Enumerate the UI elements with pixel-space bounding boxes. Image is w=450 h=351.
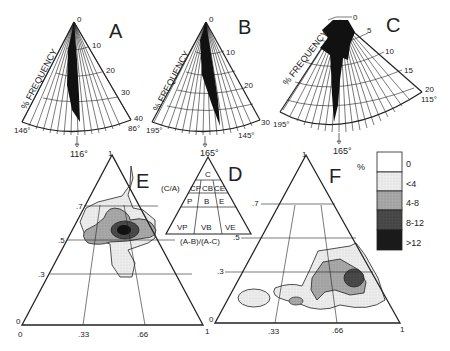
x-tick: .33 bbox=[78, 330, 90, 339]
y-tick: .7 bbox=[252, 199, 259, 208]
radial-tick: 20 bbox=[425, 85, 434, 94]
x-tick: 0 bbox=[18, 330, 23, 339]
mean-direction-label: 116° bbox=[70, 149, 88, 159]
x-tick: .66 bbox=[137, 330, 149, 339]
class-cell: CP bbox=[190, 184, 201, 193]
y-tick: .7 bbox=[76, 202, 83, 211]
class-cell: VE bbox=[225, 223, 236, 232]
left-angle-label: 195° bbox=[146, 126, 163, 135]
class-cell: C bbox=[205, 170, 211, 179]
rose-diagram-a: A 0 10 20 30 40 146° 86° 116° % FREQUENC… bbox=[14, 15, 143, 159]
panel-label-b: B bbox=[238, 16, 251, 38]
apex-label: 1 bbox=[108, 149, 113, 158]
radial-tick: 10 bbox=[92, 41, 101, 50]
left-axis-label: (C/A) bbox=[161, 184, 180, 193]
legend-label: 4-8 bbox=[406, 198, 419, 208]
x-tick: 1 bbox=[205, 327, 210, 336]
x-tick: 1 bbox=[400, 325, 405, 334]
y-tick: .5 bbox=[233, 233, 240, 242]
legend-swatch bbox=[377, 152, 402, 172]
radial-tick: 20 bbox=[106, 66, 115, 75]
right-angle-label: 145° bbox=[238, 131, 255, 140]
radial-tick: 15 bbox=[404, 66, 413, 75]
radial-tick: 30 bbox=[261, 118, 270, 127]
radial-tick: 10 bbox=[226, 48, 235, 57]
mean-direction-label: 165° bbox=[200, 148, 219, 158]
legend-swatch bbox=[377, 210, 402, 230]
right-angle-label: 86° bbox=[128, 124, 140, 133]
panel-label-a: A bbox=[109, 20, 123, 42]
legend-label: 0 bbox=[406, 159, 411, 169]
legend: % 0 <4 4-8 8-12 >12 bbox=[357, 152, 424, 250]
y-tick: 0 bbox=[209, 315, 214, 324]
radial-tick: 20 bbox=[244, 81, 253, 90]
class-cell: E bbox=[219, 197, 224, 206]
left-angle-label: 195° bbox=[273, 120, 290, 129]
panel-label-c: C bbox=[386, 14, 400, 36]
figure: A 0 10 20 30 40 146° 86° 116° % FREQUENC… bbox=[0, 0, 450, 351]
axis-title: % FREQUENCY bbox=[281, 28, 330, 87]
y-tick: .5 bbox=[58, 236, 65, 245]
apex-label: 1 bbox=[302, 150, 307, 159]
radial-tick: 0 bbox=[209, 15, 214, 24]
y-tick: .3 bbox=[38, 270, 45, 279]
class-cell: VP bbox=[177, 223, 188, 232]
class-cell: VB bbox=[201, 223, 212, 232]
x-tick: .33 bbox=[268, 327, 280, 336]
mean-direction-label: 165° bbox=[333, 146, 352, 156]
radial-tick: 0 bbox=[77, 15, 82, 24]
y-tick: .3 bbox=[217, 267, 224, 276]
radial-tick: 10 bbox=[385, 47, 394, 56]
legend-label: <4 bbox=[406, 179, 416, 189]
right-angle-label: 115° bbox=[421, 95, 437, 104]
rose-diagram-c: C 0 5 10 15 20 195° 115° 165° % FREQUENC… bbox=[273, 13, 437, 156]
panel-label-f: F bbox=[329, 165, 341, 187]
panel-label-d: D bbox=[228, 163, 242, 185]
class-cell: CB bbox=[202, 184, 213, 193]
panel-label-e: E bbox=[136, 170, 149, 192]
radial-tick: 30 bbox=[121, 88, 130, 97]
class-cell: CE bbox=[214, 184, 225, 193]
legend-title: % bbox=[357, 162, 365, 172]
legend-label: >12 bbox=[406, 238, 421, 248]
left-angle-label: 146° bbox=[14, 126, 31, 135]
radial-tick: 5 bbox=[367, 26, 372, 35]
class-cell: P bbox=[187, 197, 192, 206]
x-tick: .66 bbox=[332, 326, 344, 335]
class-cell: B bbox=[204, 197, 209, 206]
rose-diagram-b: B 0 10 20 30 195° 145° 165° % FREQUENCY bbox=[146, 15, 270, 158]
radial-tick: 0 bbox=[353, 13, 358, 22]
axis-title: % FREQUENCY bbox=[19, 47, 59, 111]
legend-swatch bbox=[377, 191, 402, 210]
legend-swatch bbox=[377, 230, 402, 250]
legend-label: 8-12 bbox=[406, 218, 424, 228]
y-tick: 0 bbox=[16, 317, 21, 326]
bottom-axis-label: (A-B)/(A-C) bbox=[180, 237, 220, 246]
legend-swatch bbox=[377, 172, 402, 191]
radial-tick: 40 bbox=[134, 114, 143, 123]
